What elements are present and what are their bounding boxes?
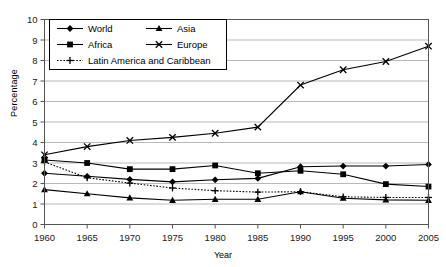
legend-swatch-latin-america: [56, 55, 84, 66]
legend-item-asia: Asia: [145, 23, 195, 34]
legend-item-latin-america-and-caribbean: Latin America and Caribbean: [56, 55, 211, 66]
legend-item-europe: Europe: [145, 39, 208, 50]
svg-text:1990: 1990: [290, 232, 311, 243]
legend-label-europe: Europe: [177, 39, 208, 50]
svg-text:9: 9: [32, 35, 37, 46]
y-axis-title: Percentage: [9, 53, 19, 133]
legend-label-africa: Africa: [88, 39, 112, 50]
y-axis-tick-labels: 012345678910: [27, 14, 38, 230]
legend-label-world: World: [88, 23, 113, 34]
svg-text:1970: 1970: [119, 232, 140, 243]
svg-text:1: 1: [32, 199, 37, 210]
legend-swatch-world: [56, 23, 84, 34]
svg-text:1985: 1985: [247, 232, 268, 243]
svg-text:7: 7: [32, 76, 37, 87]
x-axis-title: Year: [0, 250, 446, 260]
legend: World Asia Africa Europe Latin America a…: [49, 19, 227, 70]
svg-text:2: 2: [32, 178, 37, 189]
legend-swatch-asia: [145, 23, 173, 34]
x-axis-tick-labels: 1960196519701975198019851990199520002005: [34, 232, 439, 243]
svg-text:1975: 1975: [162, 232, 183, 243]
line-chart: 012345678910 196019651970197519801985199…: [0, 0, 446, 267]
svg-text:5: 5: [32, 117, 37, 128]
svg-text:1980: 1980: [205, 232, 226, 243]
svg-text:1995: 1995: [333, 232, 354, 243]
legend-item-africa: Africa: [56, 39, 112, 50]
svg-text:1960: 1960: [34, 232, 55, 243]
legend-swatch-europe: [145, 39, 173, 50]
legend-label-latin-america-and-caribbean: Latin America and Caribbean: [88, 55, 211, 66]
svg-text:8: 8: [32, 55, 37, 66]
series-africa: [42, 157, 432, 189]
svg-text:2005: 2005: [418, 232, 439, 243]
svg-text:3: 3: [32, 158, 37, 169]
svg-text:6: 6: [32, 96, 37, 107]
svg-text:0: 0: [32, 219, 37, 230]
legend-item-world: World: [56, 23, 113, 34]
svg-text:10: 10: [27, 14, 38, 25]
legend-label-asia: Asia: [177, 23, 195, 34]
series-asia: [41, 186, 432, 203]
svg-text:2000: 2000: [375, 232, 396, 243]
svg-text:1965: 1965: [77, 232, 98, 243]
svg-text:4: 4: [32, 137, 37, 148]
legend-swatch-africa: [56, 39, 84, 50]
